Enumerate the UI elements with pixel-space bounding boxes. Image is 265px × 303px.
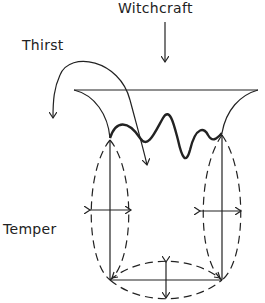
liquid-surface <box>110 114 222 158</box>
corner-arrow-left <box>112 272 118 278</box>
thirst-arrow-into-vessel <box>130 100 147 165</box>
vessel-right-wall <box>222 90 258 133</box>
vessel-diagram <box>0 0 265 303</box>
vessel-left-wall <box>74 90 110 138</box>
